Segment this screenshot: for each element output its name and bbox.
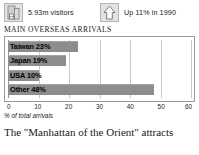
bar-label: Other 48% — [10, 84, 46, 95]
stat-growth-label: Up 11% in 1990 — [124, 8, 176, 17]
stat-growth: Up 11% in 1990 — [100, 3, 195, 22]
up-arrow-box-icon — [100, 3, 119, 22]
bar-chart: Taiwan 23%Japan 19%USA 10%Other 48% — [4, 36, 195, 102]
chart-bars: Taiwan 23%Japan 19%USA 10%Other 48% — [8, 40, 191, 98]
x-tick-label: 40 — [127, 103, 134, 110]
article-body-text: The "Manhattan of the Orient" attracts — [0, 120, 199, 139]
chart-x-axis: 0102030405060 — [4, 102, 195, 112]
section-title: MAIN OVERSEAS ARRIVALS — [0, 22, 199, 36]
stat-visitors-label: 5.93m visitors — [28, 8, 74, 17]
x-tick-label: 20 — [65, 103, 72, 110]
hotel-building-icon — [4, 3, 23, 22]
x-tick-label: 30 — [96, 103, 103, 110]
bar-row: Other 48% — [8, 84, 191, 95]
chart-x-axis-caption: % of total arrivals — [0, 112, 199, 120]
bar-label: Japan 19% — [10, 55, 47, 66]
bar-row: USA 10% — [8, 70, 191, 81]
x-tick-label: 60 — [185, 103, 192, 110]
bar-row: Taiwan 23% — [8, 41, 191, 52]
bar-label: USA 10% — [10, 70, 41, 81]
bar-row: Japan 19% — [8, 55, 191, 66]
stat-visitors: 5.93m visitors — [4, 3, 100, 22]
chart-plot-area: Taiwan 23%Japan 19%USA 10%Other 48% — [8, 40, 191, 98]
x-tick-label: 50 — [158, 103, 165, 110]
bar-label: Taiwan 23% — [10, 41, 50, 52]
gridline — [191, 40, 192, 98]
x-tick-label: 0 — [7, 103, 11, 110]
stats-row: 5.93m visitors Up 11% in 1990 — [0, 0, 199, 22]
x-tick-label: 10 — [34, 103, 41, 110]
